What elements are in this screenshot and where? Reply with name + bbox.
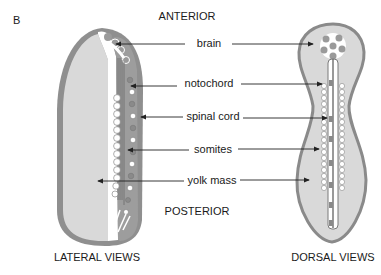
panel-label: B [13, 14, 20, 26]
lateral-views-label: LATERAL VIEWS [54, 252, 140, 263]
embryo-diagram [0, 0, 381, 275]
somites-label: somites [194, 144, 232, 155]
anterior-label: ANTERIOR [159, 11, 216, 22]
dorsal-views-label: DORSAL VIEWS [291, 252, 374, 263]
yolk-mass-label: yolk mass [188, 175, 237, 186]
spinal-cord-label: spinal cord [186, 111, 239, 122]
lateral-view-embryo [57, 28, 143, 246]
dorsal-view-embryo [297, 24, 366, 242]
brain-label: brain [197, 38, 221, 49]
posterior-label: POSTERIOR [165, 206, 230, 217]
notochord-label: notochord [185, 78, 234, 89]
